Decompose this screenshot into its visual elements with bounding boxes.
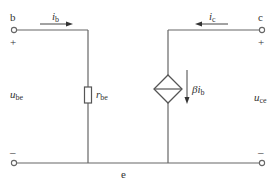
wires [17, 30, 259, 163]
source-current-arrow-icon [185, 70, 190, 104]
input-voltage-label: ube [10, 88, 24, 102]
base-current-label: ib [52, 10, 59, 24]
dependent-current-source [154, 75, 182, 103]
collector-current-label: ic [209, 10, 216, 24]
base-terminal [11, 27, 16, 32]
input-minus-sign: – [9, 146, 16, 158]
output-plus-sign: + [258, 36, 264, 48]
emitter-terminal-right [259, 160, 264, 165]
output-minus-sign: – [257, 146, 264, 158]
collector-terminal [259, 27, 264, 32]
circuit-diagram: b c e + + – – ib ic ube uce rbe βib [0, 0, 276, 186]
base-label: b [10, 11, 16, 23]
emitter-terminal-left [11, 160, 16, 165]
emitter-label: e [121, 168, 126, 180]
resistor-label: rbe [96, 88, 108, 102]
dependent-source-label: βib [191, 83, 205, 97]
output-voltage-label: uce [254, 91, 267, 105]
collector-label: c [258, 11, 263, 23]
input-plus-sign: + [10, 36, 16, 48]
resistor-rbe [85, 87, 92, 103]
